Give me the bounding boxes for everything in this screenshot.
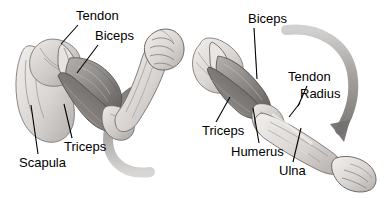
label-biceps-left: Biceps	[95, 29, 134, 42]
label-triceps-right: Triceps	[202, 124, 244, 137]
open-hand-shape	[332, 156, 376, 192]
label-biceps-right: Biceps	[248, 12, 287, 25]
label-tendon-right: Tendon	[288, 70, 331, 83]
label-triceps-left: Triceps	[64, 140, 106, 153]
clenched-fist-shape	[144, 29, 184, 70]
label-radius-right: Radius	[300, 87, 340, 100]
label-ulna-right: Ulna	[279, 164, 306, 177]
anatomy-figure: Tendon Biceps Triceps Scapula Biceps Ten…	[0, 0, 389, 198]
label-humerus-right: Humerus	[231, 145, 284, 158]
label-scapula-left: Scapula	[19, 156, 66, 169]
label-tendon-left: Tendon	[76, 9, 119, 22]
